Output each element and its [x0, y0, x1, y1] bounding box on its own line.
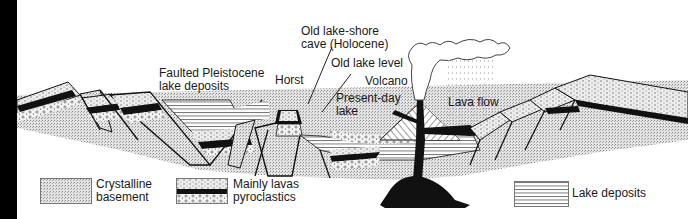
lavas-swatch: [176, 178, 228, 204]
label-old-lake-level: Old lake level: [331, 57, 403, 70]
label-horst: Horst: [275, 74, 304, 87]
label-volcano: Volcano: [365, 75, 408, 88]
geology-diagram: Faulted Pleistocene lake deposits Horst …: [0, 0, 688, 219]
legend-label: Crystalline basement: [96, 178, 152, 204]
label-old-lake-shore-cave: Old lake-shore cave (Holocene): [301, 25, 388, 51]
legend-label: Mainly lavas pyroclastics: [233, 178, 299, 204]
label-faulted-pleistocene: Faulted Pleistocene lake deposits: [159, 67, 264, 93]
magma-chamber: [380, 176, 470, 205]
label-text: cave (Holocene): [301, 38, 388, 51]
label-lava-flow: Lava flow: [448, 96, 499, 109]
label-text: lake: [336, 105, 401, 118]
crystalline-swatch: [40, 178, 92, 204]
label-present-day-lake: Present-day lake: [336, 92, 401, 118]
legend-label: Lake deposits: [572, 187, 646, 200]
lake-deposits-swatch: [514, 181, 569, 207]
label-text: lake deposits: [159, 80, 264, 93]
